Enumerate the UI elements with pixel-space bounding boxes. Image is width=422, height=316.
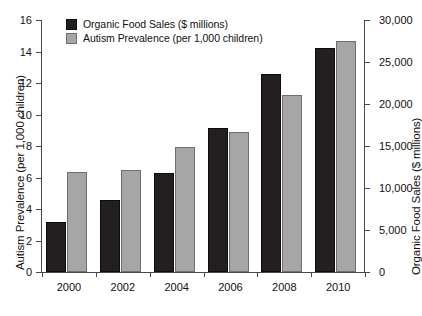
- y-axis-right-tick-mark: [365, 20, 370, 21]
- x-axis-tick-mark: [42, 272, 43, 277]
- bar-autism-2002: [121, 170, 141, 272]
- y-axis-right-tick-mark: [365, 146, 370, 147]
- y-axis-left-tick-mark: [36, 178, 41, 179]
- bar-organic-2010: [315, 48, 335, 272]
- legend-item-autism-prevalence: Autism Prevalence (per 1,000 children): [66, 32, 263, 44]
- legend-label-organic: Organic Food Sales ($ millions): [83, 18, 228, 30]
- figure-caption: [44, 309, 394, 316]
- y-axis-left-tick-label: 8: [26, 141, 32, 152]
- y-axis-left-tick-label: 14: [20, 47, 32, 58]
- x-axis-tick-mark: [150, 272, 151, 277]
- bar-organic-2004: [154, 173, 174, 272]
- x-axis-tick-mark: [96, 272, 97, 277]
- y-axis-left-tick-label: 16: [20, 15, 32, 26]
- y-axis-right-tick-label: 20,000: [379, 99, 413, 110]
- legend-swatch-icon-autism: [66, 33, 77, 44]
- y-axis-left-tick-mark: [36, 20, 41, 21]
- y-axis-left-tick-label: 0: [26, 267, 32, 278]
- legend: Organic Food Sales ($ millions) Autism P…: [66, 18, 263, 46]
- x-axis-tick-mark: [311, 272, 312, 277]
- legend-label-autism: Autism Prevalence (per 1,000 children): [83, 32, 263, 44]
- y-axis-left-tick-label: 4: [26, 204, 32, 215]
- legend-swatch-icon-organic: [66, 19, 77, 30]
- y-axis-left-tick-mark: [36, 83, 41, 84]
- y-axis-left-tick-mark: [36, 115, 41, 116]
- bar-organic-2000: [46, 222, 66, 272]
- bar-organic-2008: [261, 74, 281, 272]
- y-axis-right-tick-label: 30,000: [379, 15, 413, 26]
- y-axis-right-tick-label: 25,000: [379, 57, 413, 68]
- y-axis-right-tick-label: 15,000: [379, 141, 413, 152]
- y-axis-right-tick-label: 0: [379, 267, 385, 278]
- bar-group-2004: [150, 20, 204, 272]
- x-axis-label-2008: 2008: [261, 281, 307, 293]
- bar-group-2000: [42, 20, 96, 272]
- y-axis-left-tick-mark: [36, 272, 41, 273]
- bar-autism-2006: [229, 132, 249, 272]
- plot-area: [42, 20, 365, 272]
- y-axis-right-tick-mark: [365, 230, 370, 231]
- bar-autism-2004: [175, 147, 195, 272]
- y-axis-left-tick-mark: [36, 146, 41, 147]
- y-axis-right-tick-mark: [365, 104, 370, 105]
- y-axis-left-tick-mark: [36, 241, 41, 242]
- bar-group-2008: [257, 20, 311, 272]
- x-axis-label-2006: 2006: [208, 281, 254, 293]
- y-axis-right-tick-mark: [365, 188, 370, 189]
- y-axis-right-tick-label: 5,000: [379, 225, 407, 236]
- y-axis-left-tick-label: 6: [26, 173, 32, 184]
- y-axis-left-tick-mark: [36, 52, 41, 53]
- bar-group-2002: [96, 20, 150, 272]
- y-axis-right-tick-mark: [365, 272, 370, 273]
- bar-organic-2002: [100, 200, 120, 272]
- bar-autism-2008: [282, 95, 302, 272]
- bar-group-2010: [311, 20, 365, 272]
- x-axis-label-2002: 2002: [100, 281, 146, 293]
- y-axis-left-tick-label: 10: [20, 110, 32, 121]
- bar-autism-2010: [336, 41, 356, 272]
- x-axis-label-2004: 2004: [154, 281, 200, 293]
- y-axis-right-tick-mark: [365, 62, 370, 63]
- legend-item-organic-food-sales: Organic Food Sales ($ millions): [66, 18, 263, 30]
- y-axis-left-tick-label: 2: [26, 236, 32, 247]
- x-axis-tick-mark: [204, 272, 205, 277]
- y-axis-left-tick-label: 12: [20, 78, 32, 89]
- y-axis-left-ticks: 0246810121416: [0, 0, 40, 316]
- bar-organic-2006: [208, 128, 228, 272]
- y-axis-right-tick-label: 10,000: [379, 183, 413, 194]
- bar-autism-2000: [67, 172, 87, 272]
- x-axis-label-2010: 2010: [315, 281, 361, 293]
- y-axis-left-tick-mark: [36, 209, 41, 210]
- x-axis-tick-mark: [257, 272, 258, 277]
- y-axis-right-ticks: 05,00010,00015,00020,00025,00030,000: [370, 0, 416, 316]
- x-axis-label-2000: 2000: [46, 281, 92, 293]
- bar-group-2006: [204, 20, 258, 272]
